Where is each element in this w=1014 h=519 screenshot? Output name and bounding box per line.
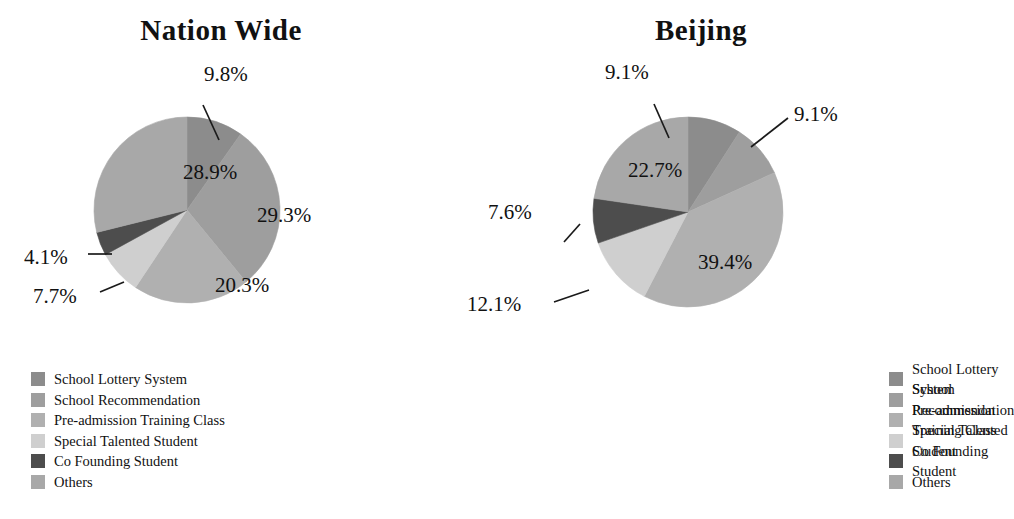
- slice-label-others-nation-wide: 28.9%: [183, 160, 237, 185]
- callout-label-special-talented-beijing: 12.1%: [467, 292, 521, 317]
- callout-label-co-founding-nation-wide: 4.1%: [24, 245, 68, 270]
- legend-swatch-school-recommendation: [31, 393, 45, 407]
- chart-title-beijing: Beijing: [472, 14, 930, 47]
- legend-nation-wide: School Lottery System School Recommendat…: [31, 369, 225, 492]
- legend-swatch-special-talented-student-beijing: [889, 434, 903, 448]
- legend-item-co-founding-student-beijing[interactable]: Co Founding Student: [889, 451, 1014, 472]
- legend-item-pre-admission-training-class[interactable]: Pre-admission Training Class: [31, 410, 225, 431]
- legend-item-co-founding-student[interactable]: Co Founding Student: [31, 451, 225, 472]
- legend-label-school-recommendation: School Recommendation: [54, 390, 200, 411]
- slice-label-pre-admission-beijing: 39.4%: [698, 250, 752, 275]
- legend-label-others-beijing: Others: [912, 472, 951, 493]
- callout-leader-line: [751, 118, 788, 147]
- pie-wrap-beijing: 22.7% 39.4% 9.1% 9.1% 7.6% 12.1%: [458, 52, 916, 362]
- callout-label-school-lottery-beijing: 9.1%: [605, 60, 649, 85]
- legend-label-others: Others: [54, 472, 93, 493]
- chart-title-nation-wide: Nation Wide: [0, 14, 450, 47]
- callout-leader-line: [564, 224, 580, 242]
- legend-label-pre-admission-training-class: Pre-admission Training Class: [54, 410, 225, 431]
- legend-item-school-recommendation[interactable]: School Recommendation: [31, 390, 225, 411]
- legend-swatch-special-talented-student: [31, 434, 45, 448]
- legend-swatch-others-beijing: [889, 475, 903, 489]
- legend-label-special-talented-student: Special Talented Student: [54, 431, 198, 452]
- pie-slices-beijing: [593, 117, 783, 307]
- legend-swatch-co-founding-student: [31, 454, 45, 468]
- callout-leader-line: [100, 282, 124, 292]
- legend-swatch-others: [31, 475, 45, 489]
- callout-label-school-lottery-nation-wide: 9.8%: [204, 62, 248, 87]
- slice-label-school-recommendation-nation-wide: 29.3%: [257, 203, 311, 228]
- callout-leader-line: [554, 290, 589, 302]
- legend-label-school-lottery-system: School Lottery System: [54, 369, 187, 390]
- callout-label-school-recommendation-beijing: 9.1%: [794, 102, 838, 127]
- legend-beijing: School Lottery System School Recommendat…: [889, 369, 1014, 492]
- callout-label-special-talented-nation-wide: 7.7%: [33, 284, 77, 309]
- legend-item-special-talented-student[interactable]: Special Talented Student: [31, 431, 225, 452]
- legend-label-co-founding-student: Co Founding Student: [54, 451, 178, 472]
- chart-panel-beijing: Beijing 22.7% 39.4% 9.1% 9.1% 7.6% 12.1%…: [458, 0, 916, 519]
- callout-label-co-founding-beijing: 7.6%: [488, 200, 532, 225]
- pie-svg-nation-wide: [0, 52, 458, 362]
- slice-label-others-beijing: 22.7%: [628, 158, 682, 183]
- legend-swatch-pre-admission-training-class-beijing: [889, 413, 903, 427]
- slice-label-pre-admission-nation-wide: 20.3%: [215, 273, 269, 298]
- legend-item-school-lottery-system[interactable]: School Lottery System: [31, 369, 225, 390]
- legend-swatch-pre-admission-training-class: [31, 413, 45, 427]
- legend-item-others[interactable]: Others: [31, 472, 225, 493]
- legend-swatch-school-lottery-system-beijing: [889, 372, 903, 386]
- legend-swatch-school-lottery-system: [31, 372, 45, 386]
- chart-panel-nation-wide: Nation Wide 28.9% 29.3% 20.3% 9.8% 4.1% …: [0, 0, 458, 519]
- legend-swatch-co-founding-student-beijing: [889, 454, 903, 468]
- legend-swatch-school-recommendation-beijing: [889, 393, 903, 407]
- pie-wrap-nation-wide: 28.9% 29.3% 20.3% 9.8% 4.1% 7.7%: [0, 52, 458, 362]
